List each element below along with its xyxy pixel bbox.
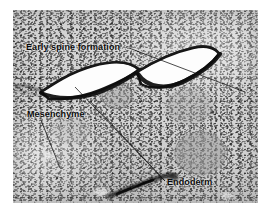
annotation-label-mesenchyme: Mesenchyme [27,109,85,119]
annotation-label-endoderm: Endoderm [167,177,212,187]
annotation-label-early-spine-formation: Early spine formation [26,42,120,52]
micrograph-image [13,10,258,203]
micrograph-vignette [13,10,258,203]
micrograph-figure: Early spine formation Mesenchyme Endoder… [0,0,274,214]
